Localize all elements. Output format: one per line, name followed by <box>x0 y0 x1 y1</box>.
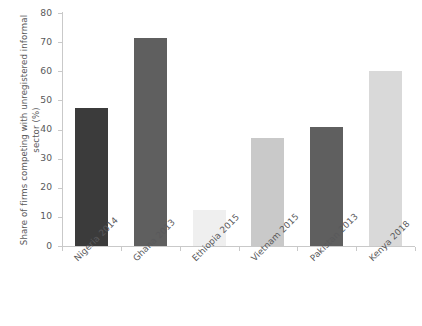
y-tick-80: 80 <box>0 13 62 14</box>
x-tick-mark <box>121 247 122 251</box>
y-tick-label: 50 <box>40 94 52 105</box>
y-tick-10: 10 <box>0 217 62 218</box>
y-tick-60: 60 <box>0 71 62 72</box>
y-tick-label: 80 <box>40 7 52 18</box>
y-tick-label: 40 <box>40 123 52 134</box>
x-tick-mark <box>62 247 63 251</box>
y-tick-0: 0 <box>0 246 62 247</box>
y-tick-40: 40 <box>0 130 62 131</box>
y-tick-label: 60 <box>40 65 52 76</box>
y-tick-30: 30 <box>0 159 62 160</box>
y-tick-label: 0 <box>46 240 52 251</box>
x-tick-mark <box>239 247 240 251</box>
x-tick-mark <box>297 247 298 251</box>
y-tick-20: 20 <box>0 188 62 189</box>
x-tick-mark <box>180 247 181 251</box>
y-tick-label: 10 <box>40 210 52 221</box>
x-tick-mark <box>415 247 416 251</box>
y-tick-label: 20 <box>40 181 52 192</box>
bar-chart: Share of firms competing with unregister… <box>0 0 422 326</box>
bars-container <box>62 13 415 247</box>
y-tick-70: 70 <box>0 42 62 43</box>
bar-ghana-2013[interactable] <box>134 38 167 246</box>
bar-kenya-2018[interactable] <box>369 71 402 246</box>
y-tick-label: 30 <box>40 152 52 163</box>
y-tick-label: 70 <box>40 36 52 47</box>
x-tick-mark <box>356 247 357 251</box>
y-tick-50: 50 <box>0 100 62 101</box>
